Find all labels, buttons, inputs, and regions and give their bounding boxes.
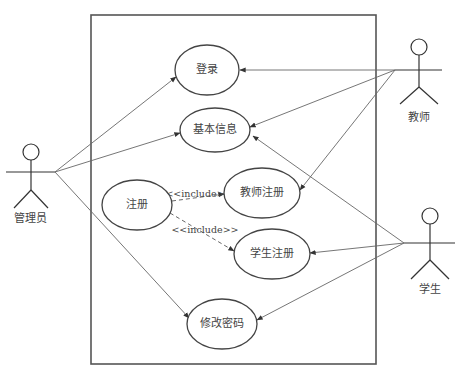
use-case-label: 登录: [196, 62, 218, 76]
use-case-label: 修改密码: [200, 316, 244, 330]
use-case-diagram: <<include>> <<include>> 登录 基本信息 注册 教师注册 …: [0, 0, 457, 368]
use-case-teacher-register[interactable]: 教师注册: [224, 168, 300, 218]
use-case-change-password[interactable]: 修改密码: [187, 299, 257, 349]
actor-head-icon: [23, 144, 39, 160]
actor-label: 管理员: [14, 211, 47, 225]
assoc-admin-basic-info: [55, 133, 180, 172]
use-case-label: 教师注册: [240, 185, 284, 199]
actor-head-icon: [422, 208, 438, 224]
use-case-label: 学生注册: [250, 246, 294, 260]
assoc-student-student-register: [310, 243, 404, 253]
use-case-student-register[interactable]: 学生注册: [234, 229, 310, 279]
actor-label: 学生: [419, 282, 441, 296]
include-label-student: <<include>>: [171, 224, 238, 235]
use-case-label: 注册: [126, 197, 148, 211]
actor-head-icon: [411, 39, 427, 55]
assoc-teacher-basic-info: [250, 70, 395, 127]
use-case-login[interactable]: 登录: [175, 45, 239, 95]
use-case-register[interactable]: 注册: [102, 180, 172, 230]
use-case-label: 基本信息: [193, 122, 237, 136]
assoc-teacher-teacher-register: [300, 70, 395, 190]
actor-admin[interactable]: 管理员: [6, 144, 55, 225]
assoc-admin-login: [55, 77, 176, 172]
include-label-teacher: <<include>>: [165, 188, 232, 199]
use-case-basic-info[interactable]: 基本信息: [180, 108, 250, 152]
actor-label: 教师: [408, 111, 430, 124]
actor-teacher[interactable]: 教师: [395, 39, 442, 124]
actor-student[interactable]: 学生: [404, 208, 455, 296]
